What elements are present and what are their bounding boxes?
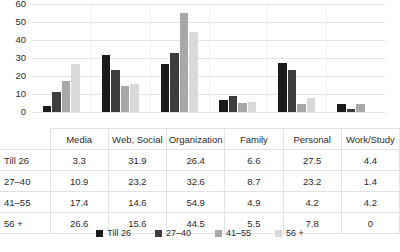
table-cell: 27.5 <box>283 150 341 171</box>
bar <box>71 64 80 112</box>
legend-label: 41–55 <box>226 228 251 238</box>
table-head: MediaWeb, SocialOrganizationFamilyPerson… <box>0 129 400 150</box>
legend-swatch-icon <box>96 230 103 237</box>
legend-label: Till 26 <box>107 228 131 238</box>
bar <box>102 55 111 112</box>
bar <box>297 104 306 112</box>
y-tick-40: 40 <box>15 35 26 45</box>
bar <box>337 104 346 112</box>
bar <box>288 70 297 112</box>
bar-group-family <box>208 4 267 112</box>
table-row-label: 27–40 <box>0 171 50 192</box>
legend-item: 27–40 <box>155 228 191 238</box>
legend-item: 41–55 <box>215 228 251 238</box>
bar <box>189 32 198 112</box>
bar <box>52 92 61 112</box>
table-cell: 23.2 <box>283 171 341 192</box>
table-row: 41–5517.414.654.94.94.24.2 <box>0 192 400 213</box>
table-body: Till 263.331.926.46.627.54.427–4010.923.… <box>0 150 400 234</box>
y-tick-20: 20 <box>15 71 26 81</box>
bar <box>43 106 52 112</box>
bar-group-web-social <box>91 4 150 112</box>
table-row: Till 263.331.926.46.627.54.4 <box>0 150 400 171</box>
table-cell: 32.6 <box>167 171 225 192</box>
data-table: MediaWeb, SocialOrganizationFamilyPerson… <box>0 128 400 234</box>
table-cell: 4.4 <box>341 150 399 171</box>
table-row: 27–4010.923.232.68.723.21.4 <box>0 171 400 192</box>
chart-legend: Till 2627–4041–5556 + <box>0 228 400 238</box>
bar <box>307 98 316 112</box>
table-header-organization: Organization <box>167 129 225 150</box>
bar <box>130 84 139 112</box>
legend-item: 56 + <box>275 228 304 238</box>
bar-group-personal <box>267 4 326 112</box>
table-row-label: 41–55 <box>0 192 50 213</box>
bar <box>219 100 228 112</box>
table-header-family: Family <box>225 129 283 150</box>
bar <box>161 64 170 112</box>
table-cell: 3.3 <box>50 150 108 171</box>
bar-group-organization <box>150 4 209 112</box>
legend-item: Till 26 <box>96 228 131 238</box>
legend-label: 27–40 <box>166 228 191 238</box>
table-cell: 54.9 <box>167 192 225 213</box>
y-tick-0: 0 <box>21 107 26 117</box>
bar <box>121 86 130 112</box>
bar <box>170 53 179 112</box>
bar <box>62 81 71 112</box>
table-header-work-study: Work/Study <box>341 129 399 150</box>
table-cell: 14.6 <box>108 192 166 213</box>
y-tick-30: 30 <box>15 53 26 63</box>
bar <box>229 96 238 112</box>
data-table-wrap: MediaWeb, SocialOrganizationFamilyPerson… <box>0 128 400 234</box>
y-axis: 0102030405060 <box>0 4 30 112</box>
table-cell: 23.2 <box>108 171 166 192</box>
y-tick-10: 10 <box>15 89 26 99</box>
table-cell: 1.4 <box>341 171 399 192</box>
table-cell: 4.2 <box>283 192 341 213</box>
table-cell: 26.4 <box>167 150 225 171</box>
bar <box>347 109 356 112</box>
table-cell: 6.6 <box>225 150 283 171</box>
table-row-label: Till 26 <box>0 150 50 171</box>
bar <box>356 104 365 112</box>
table-cell: 4.2 <box>341 192 399 213</box>
legend-swatch-icon <box>215 230 222 237</box>
bar <box>248 102 257 112</box>
legend-swatch-icon <box>275 230 282 237</box>
bar <box>111 70 120 112</box>
bar-chart: 0102030405060 <box>0 4 400 132</box>
gridline-0 <box>32 112 385 113</box>
y-tick-60: 60 <box>15 0 26 9</box>
legend-label: 56 + <box>286 228 304 238</box>
table-cell: 10.9 <box>50 171 108 192</box>
bar-groups <box>32 4 385 112</box>
bar-group-media <box>32 4 91 112</box>
table-cell: 4.9 <box>225 192 283 213</box>
chart-sheet: 0102030405060 MediaWeb, SocialOrganizati… <box>0 0 400 252</box>
plot-area <box>32 4 385 112</box>
table-cell: 31.9 <box>108 150 166 171</box>
table-header-row: MediaWeb, SocialOrganizationFamilyPerson… <box>0 129 400 150</box>
table-cell: 8.7 <box>225 171 283 192</box>
table-header-personal: Personal <box>283 129 341 150</box>
bar-group-work-study <box>326 4 385 112</box>
table-cell: 17.4 <box>50 192 108 213</box>
y-tick-50: 50 <box>15 17 26 27</box>
bar <box>180 13 189 112</box>
legend-swatch-icon <box>155 230 162 237</box>
bar <box>278 63 287 113</box>
bar <box>238 103 247 112</box>
table-header-media: Media <box>50 129 108 150</box>
table-corner-cell <box>0 129 50 150</box>
table-header-web-social: Web, Social <box>108 129 166 150</box>
